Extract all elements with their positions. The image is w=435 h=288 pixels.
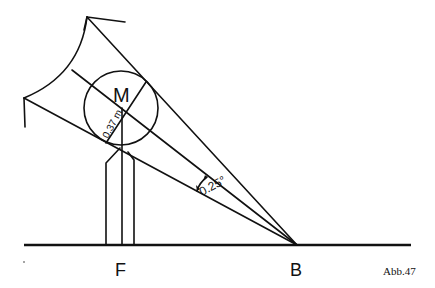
diagram-canvas: M 0.37 m 0.25° F B Abb.47 [0,0,435,288]
label-b: B [290,260,302,280]
label-m: M [113,84,130,106]
figure-caption: Abb.47 [383,265,416,277]
sight-rays [24,17,297,245]
label-angle: 0.25° [197,173,229,199]
upper-ray [87,17,297,245]
top-tick [87,17,125,22]
label-radius: 0.37 m [100,108,124,140]
stray-dot [23,261,25,263]
left-tick [24,98,25,127]
lower-ray [24,98,297,245]
label-f: F [115,260,126,280]
outer-arc [24,17,87,98]
